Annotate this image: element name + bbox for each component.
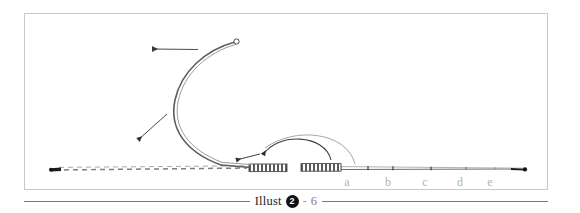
caption-badge: 2	[286, 195, 299, 208]
segment-label-e: e	[487, 175, 492, 190]
figure-page: a b c d e Illust 2 - 6	[0, 0, 580, 213]
segment-label-a: a	[344, 175, 349, 190]
caption-rule-left	[24, 201, 250, 202]
caption-text: Illust 2 - 6	[250, 194, 323, 209]
caption-word: Illust	[255, 194, 282, 209]
arrow-to-bend	[236, 154, 260, 160]
coil-left	[249, 164, 287, 172]
segment-label-c: c	[422, 175, 427, 190]
figure-caption: Illust 2 - 6	[24, 190, 548, 212]
coil-right	[301, 164, 341, 172]
caption-number: 6	[311, 194, 317, 209]
figure-frame: a b c d e	[24, 13, 548, 190]
figure-illustration	[25, 14, 549, 191]
bent-rod-curve	[174, 42, 251, 167]
arrow-top-left	[152, 49, 198, 50]
caption-rule-right	[322, 201, 548, 202]
segment-label-d: d	[457, 175, 463, 190]
segment-label-b: b	[385, 175, 391, 190]
dashed-rod	[49, 166, 247, 172]
arrow-diagonal-down-left	[138, 114, 167, 140]
curve-tip-marker	[234, 39, 239, 44]
arc-right-faint	[265, 135, 355, 164]
arrow-arc-coil	[263, 139, 331, 160]
caption-dash: -	[303, 194, 307, 209]
